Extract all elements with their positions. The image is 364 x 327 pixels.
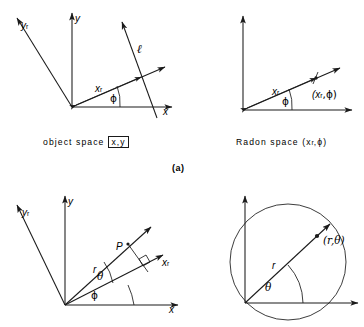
radon-angle-phi-arc bbox=[289, 89, 292, 110]
label-angle-phi: ϕ bbox=[110, 88, 117, 106]
panel-object-space bbox=[17, 13, 172, 118]
caption-object-space: object spacex,y bbox=[43, 131, 129, 149]
polar-ray-r bbox=[65, 227, 151, 305]
polar-label-axis-y: y bbox=[68, 191, 73, 209]
angle-phi-arc bbox=[117, 86, 120, 107]
projection-line-l bbox=[122, 22, 157, 118]
panel-letter-a: (a) bbox=[172, 157, 185, 175]
figure-root: y x yr xr ℓ ϕ xr ϕ (xr,ϕ) object spacex,… bbox=[0, 0, 364, 327]
xr-measure-arrow bbox=[76, 77, 141, 105]
polar-label-phi: ϕ bbox=[91, 285, 98, 303]
panel-polar-space bbox=[230, 196, 358, 320]
polar-space-theta-arc bbox=[288, 265, 303, 303]
label-axis-yr: yr bbox=[21, 15, 28, 33]
point-p-dot bbox=[126, 242, 129, 245]
polar-angle-phi-arc bbox=[128, 285, 134, 305]
polar-label-theta: θ bbox=[97, 266, 103, 284]
polar-axis-yr bbox=[17, 205, 65, 305]
polar-space-label-theta: θ bbox=[265, 277, 271, 295]
radon-label-xr: xr bbox=[272, 81, 279, 99]
polar-label-r: r bbox=[93, 259, 96, 277]
radon-point-dot bbox=[314, 76, 317, 79]
label-axis-x: x bbox=[163, 101, 168, 119]
polar-label-axis-x: x bbox=[169, 299, 174, 317]
polar-space-point-label: (r,θ) bbox=[323, 230, 345, 248]
label-axis-y: y bbox=[75, 8, 80, 26]
radon-point-label: (xr,ϕ) bbox=[312, 84, 337, 102]
label-projection-line-l: ℓ bbox=[137, 39, 142, 57]
caption-radon-space: Radon space (xr,ϕ) bbox=[236, 131, 327, 149]
radon-label-angle-phi: ϕ bbox=[282, 91, 289, 109]
polar-label-axis-xr: xr bbox=[162, 252, 169, 270]
polar-label-axis-yr: yr bbox=[22, 202, 29, 220]
label-xr-measure: xr bbox=[95, 78, 102, 96]
polar-space-label-r: r bbox=[272, 255, 275, 273]
polar-space-point-dot bbox=[315, 234, 319, 238]
polar-label-point-p: P bbox=[116, 236, 123, 254]
